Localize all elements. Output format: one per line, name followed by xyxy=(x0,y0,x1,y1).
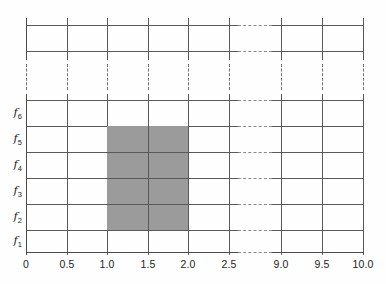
y-tick-subscript: 2 xyxy=(18,216,22,225)
y-tick-label: f6 xyxy=(14,105,22,121)
y-tick-label: f2 xyxy=(14,209,22,225)
y-tick-subscript: 3 xyxy=(18,190,22,199)
gridline-vertical xyxy=(26,18,27,60)
x-tick-label: 0 xyxy=(23,258,29,270)
gridline-vertical xyxy=(67,18,68,60)
vertical-break-dash xyxy=(322,64,323,90)
gridline-vertical xyxy=(188,94,189,255)
y-tick-subscript: 1 xyxy=(18,240,22,249)
x-tick-label: 1.0 xyxy=(99,258,114,270)
x-tick-label: 9.5 xyxy=(314,258,329,270)
gridline-horizontal xyxy=(272,100,363,101)
gridline-horizontal xyxy=(272,51,363,52)
gridline-break-dash xyxy=(238,252,272,253)
gridline-vertical xyxy=(363,94,364,255)
x-tick-label: 10.0 xyxy=(352,258,373,270)
y-tick-subscript: 5 xyxy=(18,138,22,147)
vertical-break-dash xyxy=(281,64,282,90)
gridline-horizontal xyxy=(272,178,363,179)
x-tick-label: 1.5 xyxy=(140,258,155,270)
gridline-break-dash xyxy=(238,178,272,179)
gridline-horizontal xyxy=(26,100,238,101)
vertical-break-dash xyxy=(363,64,364,90)
gridline-break-dash xyxy=(238,230,272,231)
x-tick-label: 9.0 xyxy=(273,258,288,270)
gridline-horizontal xyxy=(272,230,363,231)
vertical-break-dash xyxy=(148,64,149,90)
y-tick-label: f1 xyxy=(14,233,22,249)
vertical-break-dash xyxy=(188,64,189,90)
gridline-vertical xyxy=(148,126,149,230)
gridline-horizontal xyxy=(26,252,238,253)
gridline-vertical xyxy=(67,94,68,255)
gridline-break-dash xyxy=(238,204,272,205)
y-axis-tick-labels: f6f5f4f3f2f1 xyxy=(0,0,22,284)
gridline-vertical xyxy=(322,18,323,60)
gridline-horizontal xyxy=(26,51,238,52)
y-tick-label: f4 xyxy=(14,157,22,173)
gridline-vertical xyxy=(148,18,149,60)
gridline-vertical xyxy=(281,18,282,60)
gridline-horizontal xyxy=(26,230,238,231)
gridline-break-dash xyxy=(238,100,272,101)
gridline-horizontal xyxy=(272,126,363,127)
gridline-break-dash xyxy=(238,126,272,127)
gridline-horizontal xyxy=(272,25,363,26)
time-frequency-grid-figure: 00.51.01.52.02.59.09.510.0 f6f5f4f3f2f1 xyxy=(0,0,386,284)
x-tick-label: 2.5 xyxy=(221,258,236,270)
gridline-break-dash xyxy=(238,51,272,52)
vertical-break-dash xyxy=(107,64,108,90)
y-tick-label: f5 xyxy=(14,131,22,147)
gridline-vertical xyxy=(363,18,364,60)
gridline-break-dash xyxy=(238,25,272,26)
y-tick-label: f3 xyxy=(14,183,22,199)
gridline-horizontal xyxy=(272,204,363,205)
gridline-horizontal xyxy=(272,152,363,153)
gridline-vertical xyxy=(229,18,230,60)
gridline-vertical xyxy=(107,18,108,60)
vertical-break-dash xyxy=(229,64,230,90)
gridline-vertical xyxy=(188,18,189,60)
gridline-vertical xyxy=(281,94,282,255)
x-tick-label: 0.5 xyxy=(59,258,74,270)
gridline-vertical xyxy=(26,94,27,255)
y-tick-subscript: 4 xyxy=(18,164,22,173)
gridline-horizontal xyxy=(272,252,363,253)
gridline-vertical xyxy=(322,94,323,255)
gridline-break-dash xyxy=(238,152,272,153)
gridline-horizontal xyxy=(26,25,238,26)
vertical-break-dash xyxy=(26,64,27,90)
x-tick-label: 2.0 xyxy=(180,258,195,270)
vertical-break-dash xyxy=(67,64,68,90)
gridline-vertical xyxy=(229,94,230,255)
y-tick-subscript: 6 xyxy=(18,112,22,121)
